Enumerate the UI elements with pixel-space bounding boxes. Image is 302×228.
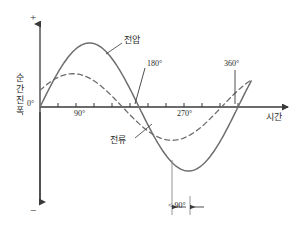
y-axis-title: 순 간 진 폭 xyxy=(14,73,25,117)
leader-current xyxy=(135,124,152,138)
x-axis-title: 시간 xyxy=(266,113,282,122)
leader-voltage xyxy=(106,43,122,54)
current-series-label: 전류 xyxy=(110,136,126,145)
x-tick-label-90: 90° xyxy=(74,110,85,118)
x-tick-label-270: 270° xyxy=(177,110,192,118)
y-axis-minus-label: − xyxy=(30,205,36,216)
y-axis-title-char: 폭 xyxy=(14,106,25,117)
y-axis-title-char: 진 xyxy=(14,95,25,106)
y-axis-title-char: 순 xyxy=(14,73,25,84)
y-axis-plus-label: + xyxy=(30,12,36,23)
x-tick-label-180: 180° xyxy=(147,60,162,68)
phase-difference-label: < 90° xyxy=(168,202,186,210)
y-axis-title-char: 간 xyxy=(14,84,25,95)
origin-label: 0° xyxy=(27,100,34,108)
x-tick-label-360: 360° xyxy=(224,60,239,68)
sine-wave-chart xyxy=(0,0,302,228)
voltage-series-label: 전압 xyxy=(124,36,140,45)
leader-180 xyxy=(135,68,145,104)
